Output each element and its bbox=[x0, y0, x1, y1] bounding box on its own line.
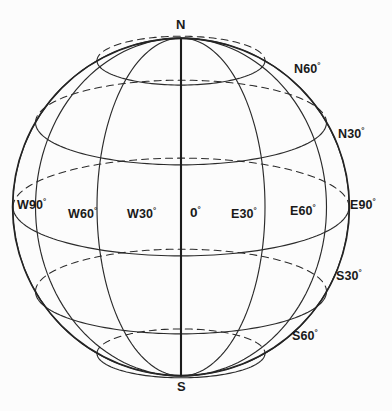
latitude-label-s30-degree-symbol: ° bbox=[359, 268, 362, 277]
south-pole-label: S bbox=[177, 380, 186, 393]
latitude-label-n60-degree-symbol: ° bbox=[317, 61, 320, 70]
longitude-label-e30-degree-symbol: ° bbox=[254, 206, 257, 215]
meridian--60 bbox=[36, 38, 181, 376]
longitude-label-e60-degree-symbol: ° bbox=[313, 203, 316, 212]
longitude-label-w60-degree-symbol: ° bbox=[94, 206, 97, 215]
longitude-label-prime-meridian-degree-symbol: ° bbox=[198, 205, 201, 214]
latitude-label-s60-degree-symbol: ° bbox=[315, 328, 318, 337]
north-pole-label: N bbox=[176, 18, 186, 31]
longitude-label-e90-degree-symbol: ° bbox=[373, 197, 376, 206]
longitude-label-e60: E60° bbox=[290, 205, 316, 218]
longitude-label-w30-degree-symbol: ° bbox=[153, 206, 156, 215]
latitude-label-s30: S30° bbox=[336, 270, 362, 283]
longitude-label-w30: W30° bbox=[127, 208, 156, 221]
latitude-label-n30: N30° bbox=[338, 128, 365, 141]
longitude-label-w60: W60° bbox=[68, 208, 97, 221]
latitude-label-n60: N60° bbox=[294, 63, 321, 76]
longitude-label-e90: E90° bbox=[350, 199, 376, 212]
longitude-label-e30: E30° bbox=[231, 208, 257, 221]
longitude-label-prime-meridian: 0° bbox=[190, 206, 201, 220]
latitude-label-s60: S60° bbox=[292, 330, 318, 343]
globe-diagram: N S N60°N30°S30°S60° W90°W60°W30°0°E30°E… bbox=[0, 0, 392, 411]
longitude-label-w90: W90° bbox=[17, 199, 46, 212]
latitude-label-n30-degree-symbol: ° bbox=[361, 126, 364, 135]
longitude-label-w90-degree-symbol: ° bbox=[43, 197, 46, 206]
